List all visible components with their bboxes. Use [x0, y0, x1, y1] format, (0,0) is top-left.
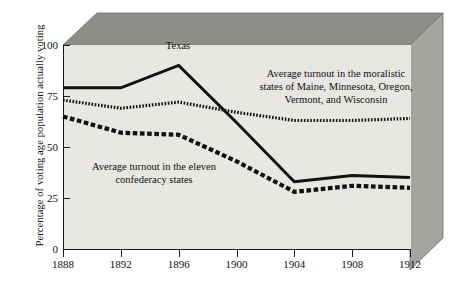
- chart-figure: Percentage of voting age population actu…: [0, 0, 464, 288]
- annotation-confederacy: Average turnout in the eleven confederac…: [66, 161, 242, 187]
- annotation-moralistic: Average turnout in the moralistic states…: [248, 68, 424, 106]
- annotation-texas: Texas: [148, 40, 208, 53]
- data-series-layer: [0, 0, 464, 288]
